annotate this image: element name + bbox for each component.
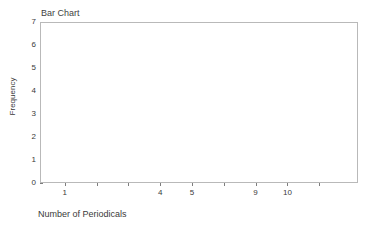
bar-chart-figure: Bar Chart Frequency 01234567 145910 Numb… [0, 0, 370, 229]
x-tick-label: 9 [244, 188, 268, 197]
x-tick-mark [160, 183, 161, 186]
y-tick-label: 6 [22, 41, 36, 49]
y-tick-label: 1 [22, 156, 36, 164]
x-tick-mark [224, 183, 225, 186]
x-tick-mark [256, 183, 257, 186]
chart-title: Bar Chart [39, 8, 83, 19]
y-tick-label: 3 [22, 110, 36, 118]
y-axis-title: Frequency [8, 47, 17, 147]
y-tick-label: 2 [22, 133, 36, 141]
x-tick-label: 1 [53, 188, 77, 197]
y-tick-mark [40, 183, 43, 184]
x-tick-mark [65, 183, 66, 186]
y-tick-label: 7 [22, 18, 36, 26]
x-tick-mark [287, 183, 288, 186]
y-tick-label: 4 [22, 87, 36, 95]
x-tick-mark [319, 183, 320, 186]
x-tick-label: 5 [180, 188, 204, 197]
x-tick-mark [97, 183, 98, 186]
x-tick-mark [192, 183, 193, 186]
x-axis-title: Number of Periodicals [38, 209, 127, 220]
y-tick-label: 0 [22, 179, 36, 187]
plot-area [41, 23, 357, 182]
y-tick-label: 5 [22, 64, 36, 72]
x-tick-label: 10 [275, 188, 299, 197]
x-tick-label: 4 [148, 188, 172, 197]
plot-frame [40, 22, 358, 183]
x-tick-mark [128, 183, 129, 186]
